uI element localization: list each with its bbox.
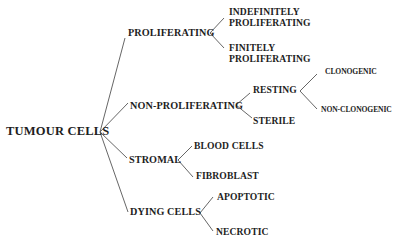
node-apoptotic: APOPTOTIC — [217, 192, 275, 202]
node-necrotic: NECROTIC — [216, 227, 269, 237]
edge-dying-apoptotic — [200, 197, 213, 213]
edge-resting-non-clonogenic — [300, 91, 317, 109]
node-resting: RESTING — [253, 85, 297, 95]
edge-dying-necrotic — [200, 213, 213, 231]
tumour-cell-classification-diagram: TUMOUR CELLS PROLIFERATING NON-PROLIFERA… — [0, 0, 394, 244]
node-sterile: STERILE — [253, 116, 295, 126]
node-non-clonogenic: NON-CLONOGENIC — [321, 106, 392, 114]
node-indefinitely-line2: PROLIFERATING — [229, 17, 311, 28]
node-dying-cells: DYING CELLS — [130, 207, 201, 217]
node-indefinitely-line1: INDEFINITELY — [229, 6, 311, 17]
node-non-proliferating: NON-PROLIFERATING — [130, 101, 243, 111]
edge-root-dying — [100, 132, 128, 212]
node-indefinitely-proliferating: INDEFINITELY PROLIFERATING — [229, 6, 311, 28]
node-fibroblast: FIBROBLAST — [196, 171, 259, 181]
node-proliferating: PROLIFERATING — [128, 28, 215, 38]
node-finitely-line1: FINITELY — [229, 42, 311, 53]
node-blood-cells: BLOOD CELLS — [194, 141, 264, 151]
node-finitely-proliferating: FINITELY PROLIFERATING — [229, 42, 311, 64]
node-stromal: STROMAL — [129, 155, 181, 165]
node-clonogenic: CLONOGENIC — [325, 68, 377, 76]
root-node-tumour-cells: TUMOUR CELLS — [6, 125, 109, 138]
edge-resting-clonogenic — [300, 74, 317, 91]
edge-root-proliferating — [100, 38, 125, 132]
node-finitely-line2: PROLIFERATING — [229, 53, 311, 64]
